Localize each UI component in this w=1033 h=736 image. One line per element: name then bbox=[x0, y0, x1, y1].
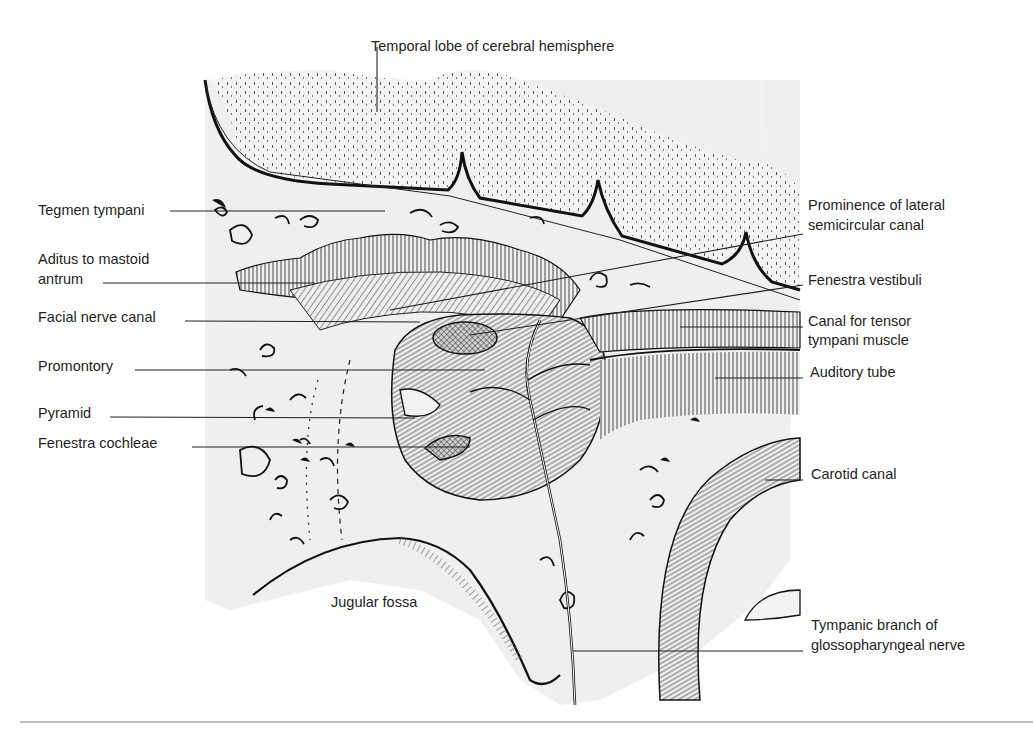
label-pyramid: Pyramid bbox=[38, 405, 91, 422]
anatomy-figure: Temporal lobe of cerebral hemisphere Teg… bbox=[0, 0, 1033, 736]
label-jugular-fossa: Jugular fossa bbox=[331, 594, 417, 611]
label-prominence-line2: semicircular canal bbox=[808, 217, 924, 234]
label-facial-nerve-canal: Facial nerve canal bbox=[38, 309, 156, 326]
label-tympanic-line2: glossopharyngeal nerve bbox=[811, 637, 965, 654]
label-auditory-tube: Auditory tube bbox=[810, 364, 895, 381]
label-tympanic-line1: Tympanic branch of bbox=[811, 617, 938, 634]
label-prominence-line1: Prominence of lateral bbox=[808, 197, 945, 214]
label-promontory: Promontory bbox=[38, 358, 113, 375]
label-tensor-line2: tympani muscle bbox=[808, 332, 909, 349]
label-fenestra-vestibuli: Fenestra vestibuli bbox=[808, 272, 922, 289]
label-tensor-line1: Canal for tensor bbox=[808, 313, 911, 330]
label-aditus-line1: Aditus to mastoid bbox=[38, 251, 149, 268]
label-temporal-lobe: Temporal lobe of cerebral hemisphere bbox=[371, 38, 614, 55]
label-carotid-canal: Carotid canal bbox=[811, 466, 896, 483]
bottom-divider bbox=[20, 721, 1033, 723]
fenestra-vestibuli-shape bbox=[433, 322, 497, 354]
label-fenestra-cochleae: Fenestra cochleae bbox=[38, 435, 157, 452]
label-aditus-line2: antrum bbox=[38, 271, 83, 288]
label-tegmen-tympani: Tegmen tympani bbox=[38, 202, 144, 219]
